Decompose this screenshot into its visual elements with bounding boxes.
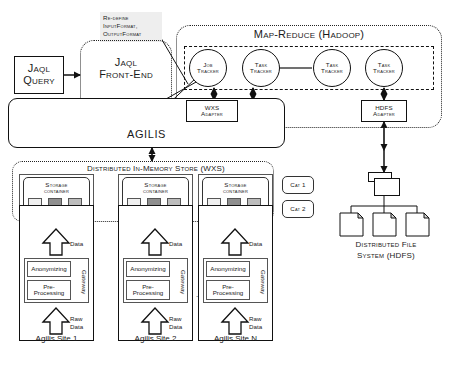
site-n-anonymizing: Anonymizing — [206, 261, 250, 277]
site-n-preprocessing: Pre-Processing — [206, 280, 250, 300]
site-n-raw-line-2: Data — [249, 323, 262, 330]
site-n-name: Agilis Site N — [198, 333, 273, 345]
site-n-gateway-label: Gateway — [251, 262, 267, 302]
site-n-data-label: Data — [249, 240, 262, 247]
raw-data-arrow-up — [222, 308, 248, 334]
diagram-canvas: Re-define InputFormat, OutputFormat Jaql… — [0, 0, 456, 366]
data-flow-arrow-up — [222, 229, 248, 255]
site-n-raw-line-1: Raw — [249, 315, 261, 322]
site-n-arrows — [0, 0, 456, 366]
